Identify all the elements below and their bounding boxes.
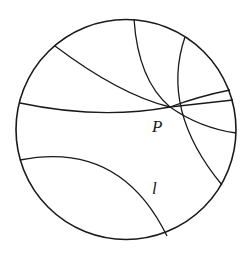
geodesic-top-right-to-bottom-right: [178, 37, 222, 185]
line-l-label: l: [152, 180, 157, 197]
disk-boundary: [16, 20, 236, 240]
geodesic-P-right-lower: [170, 107, 236, 133]
point-P-label: P: [152, 118, 162, 135]
poincare-disk-diagram: [0, 0, 250, 255]
line-l: [20, 157, 167, 236]
geodesic-top: [134, 19, 170, 107]
geodesic-left-horizontal: [20, 103, 170, 113]
geodesic-top-left: [55, 46, 170, 107]
